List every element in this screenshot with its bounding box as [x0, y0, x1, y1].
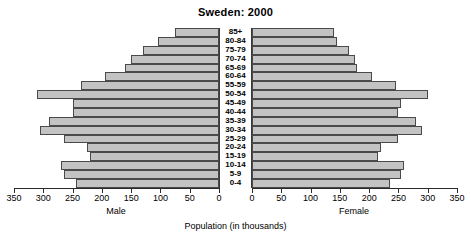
bar-row [252, 108, 457, 117]
bar-row [252, 117, 457, 126]
bar-row [14, 143, 219, 152]
bar-row [252, 72, 457, 81]
axis-tick-label: 150 [325, 193, 355, 203]
bar-row [14, 64, 219, 73]
bar-row [14, 135, 219, 144]
bar-row [14, 117, 219, 126]
male-bar [175, 28, 219, 37]
bar-row [252, 170, 457, 179]
bar-row [14, 28, 219, 37]
female-bar [252, 170, 401, 179]
bar-row [252, 152, 457, 161]
male-bar [87, 143, 219, 152]
bar-row [14, 55, 219, 64]
male-bar [105, 72, 219, 81]
female-bar [252, 108, 398, 117]
female-bar [252, 126, 422, 135]
bar-row [252, 46, 457, 55]
x-axis-caption: Population (in thousands) [0, 221, 471, 231]
axis-tick-label: 300 [413, 193, 443, 203]
axis-tick-label: 150 [116, 193, 146, 203]
bar-row [252, 135, 457, 144]
male-bar [73, 108, 219, 117]
male-bar [76, 179, 220, 188]
age-group-label: 0-4 [220, 179, 251, 188]
male-bars-panel [14, 28, 219, 188]
female-bar [252, 99, 401, 108]
bar-row [14, 161, 219, 170]
bar-row [252, 99, 457, 108]
female-bar [252, 37, 337, 46]
axis-tick-label: 350 [0, 193, 29, 203]
bar-row [14, 126, 219, 135]
bar-row [14, 179, 219, 188]
female-bar [252, 64, 357, 73]
bar-row [14, 72, 219, 81]
male-bar [64, 135, 219, 144]
bar-row [252, 81, 457, 90]
bar-row [14, 99, 219, 108]
axis-tick-label: 0 [204, 193, 234, 203]
bar-row [14, 81, 219, 90]
axis-tick-label: 350 [442, 193, 471, 203]
axis-tick-label: 50 [175, 193, 205, 203]
axis-tick-label: 200 [87, 193, 117, 203]
female-bar [252, 90, 428, 99]
female-bar [252, 152, 378, 161]
axis-tick-label: 0 [237, 193, 267, 203]
bar-row [252, 28, 457, 37]
male-bar [64, 170, 219, 179]
axis-tick-label: 300 [28, 193, 58, 203]
female-bar [252, 46, 349, 55]
bar-row [252, 37, 457, 46]
female-bar [252, 28, 334, 37]
male-bar [61, 161, 219, 170]
bar-row [252, 179, 457, 188]
male-bar [125, 64, 219, 73]
bar-row [14, 152, 219, 161]
female-bar [252, 143, 381, 152]
male-bar [49, 117, 219, 126]
axis-tick-label: 200 [354, 193, 384, 203]
axis-tick-label: 250 [383, 193, 413, 203]
female-bar [252, 161, 404, 170]
male-axis-line [14, 188, 219, 189]
female-bar [252, 179, 390, 188]
male-bar [143, 46, 219, 55]
chart-title: Sweden: 2000 [0, 6, 471, 18]
male-bar [81, 81, 219, 90]
female-bar [252, 55, 355, 64]
female-bar [252, 135, 398, 144]
bar-row [252, 55, 457, 64]
bar-row [14, 46, 219, 55]
female-bar [252, 117, 416, 126]
axis-tick-label: 50 [266, 193, 296, 203]
bar-row [252, 161, 457, 170]
female-axis-line [252, 188, 457, 189]
bar-row [252, 90, 457, 99]
female-axis-label: Female [309, 206, 399, 216]
male-bar [37, 90, 219, 99]
axis-tick-label: 100 [145, 193, 175, 203]
female-bar [252, 81, 396, 90]
female-tick-labels: 050100150200250300350 [252, 193, 457, 205]
male-bar [73, 99, 219, 108]
bar-row [14, 90, 219, 99]
bar-row [252, 143, 457, 152]
bar-row [252, 64, 457, 73]
bar-row [252, 126, 457, 135]
bar-row [14, 170, 219, 179]
bar-row [14, 108, 219, 117]
bar-row [14, 37, 219, 46]
age-group-axis: 85+80-8475-7970-7465-6960-6455-5950-5445… [219, 28, 252, 188]
male-bar [131, 55, 219, 64]
axis-tick-label: 250 [58, 193, 88, 203]
male-bar [90, 152, 219, 161]
male-bar [40, 126, 219, 135]
axis-tick-label: 100 [296, 193, 326, 203]
male-bar [158, 37, 220, 46]
male-axis-label: Male [71, 206, 161, 216]
female-bar [252, 72, 372, 81]
population-pyramid-chart: Sweden: 2000 85+80-8475-7970-7465-6960-6… [0, 0, 471, 237]
male-tick-labels: 050100150200250300350 [14, 193, 219, 205]
